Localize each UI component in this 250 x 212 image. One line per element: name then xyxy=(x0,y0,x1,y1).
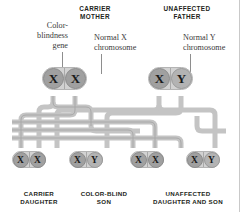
caption-1-line1: CARRIER xyxy=(8,190,70,198)
chromosome-disc-c3-x1: X xyxy=(131,152,147,168)
parent-pair-carrier-mother: X X xyxy=(42,67,87,90)
callout-normy-line1: Normal Y xyxy=(183,33,247,43)
leader-line-normal-x xyxy=(101,54,102,74)
parent-pair-unaffected-father: X Y xyxy=(148,67,193,90)
allele-slot-father-1: X xyxy=(149,68,170,89)
callout-gene-line2: blindness xyxy=(6,31,68,41)
allele-slot-c2-1: X xyxy=(70,152,86,167)
chromosome-disc-c2-y: Y xyxy=(87,152,103,168)
allele-slot-c3-1: X xyxy=(131,152,147,167)
caption-3-line1: UNAFFECTED xyxy=(140,190,236,198)
allele-slot-c1-1: X xyxy=(13,152,29,167)
caption-2-line2: SON xyxy=(72,198,136,206)
allele-slot-c1-2: X xyxy=(29,152,46,167)
allele-slot-c4-1: X xyxy=(187,152,203,167)
callout-normal-y-chromosome: Normal Y chromosome xyxy=(183,33,247,53)
heading-father-line1: UNAFFECTED xyxy=(146,5,228,13)
offspring-pair-carrier-daughter: X X xyxy=(12,151,46,168)
callout-gene-line1: Color- xyxy=(6,21,68,31)
allele-slot-mother-1: X xyxy=(43,68,64,89)
chromosome-disc-c4-y: Y xyxy=(204,152,220,168)
chromosome-disc-c1-x1: X xyxy=(13,152,29,168)
offspring-pair-unaffected-son: X Y xyxy=(186,151,220,168)
allele-slot-c2-2: Y xyxy=(86,152,103,167)
heading-carrier-mother: CARRIER MOTHER xyxy=(55,5,135,21)
heading-unaffected-father: UNAFFECTED FATHER xyxy=(146,5,228,21)
chromosome-disc-normal-x: X xyxy=(65,68,86,89)
caption-carrier-daughter: CARRIER DAUGHTER xyxy=(8,190,70,206)
chromosome-disc-c4-x: X xyxy=(187,152,203,168)
callout-normal-x-chromosome: Normal X chromosome xyxy=(94,33,160,53)
caption-2-line1: COLOR-BLIND xyxy=(72,190,136,198)
chromosome-disc-c1-x2: X xyxy=(30,152,46,168)
caption-3-line2: DAUGHTER AND SON xyxy=(140,198,236,206)
allele-slot-father-2: Y xyxy=(170,68,192,89)
chromosome-disc-normal-y: Y xyxy=(171,68,192,89)
heading-mother-line1: CARRIER xyxy=(55,5,135,13)
inheritance-connector-pipes xyxy=(0,96,250,152)
heading-mother-line2: MOTHER xyxy=(55,13,135,21)
heading-father-line2: FATHER xyxy=(146,13,228,21)
callout-normx-line1: Normal X xyxy=(94,33,160,43)
chromosome-disc-father-x: X xyxy=(149,68,170,89)
callout-gene-line3: gene xyxy=(6,41,68,51)
offspring-pair-color-blind-son: X Y xyxy=(69,151,103,168)
callout-normy-line2: chromosome xyxy=(183,43,247,53)
caption-color-blind-son: COLOR-BLIND SON xyxy=(72,190,136,206)
caption-1-line2: DAUGHTER xyxy=(8,198,70,206)
allele-slot-c3-2: X xyxy=(147,152,164,167)
callout-normx-line2: chromosome xyxy=(94,43,160,53)
callout-color-blindness-gene: Color- blindness gene xyxy=(6,21,68,52)
offspring-pair-unaffected-daughter: X X xyxy=(130,151,164,168)
chromosome-disc-affected-x: X xyxy=(43,68,64,89)
chromosome-disc-c3-x2: X xyxy=(148,152,164,168)
inheritance-diagram: CARRIER MOTHER UNAFFECTED FATHER Color- … xyxy=(0,0,250,212)
allele-slot-mother-2: X xyxy=(64,68,86,89)
chromosome-disc-c2-x: X xyxy=(70,152,86,168)
allele-slot-c4-2: Y xyxy=(203,152,220,167)
caption-unaffected-daughter-and-son: UNAFFECTED DAUGHTER AND SON xyxy=(140,190,236,206)
